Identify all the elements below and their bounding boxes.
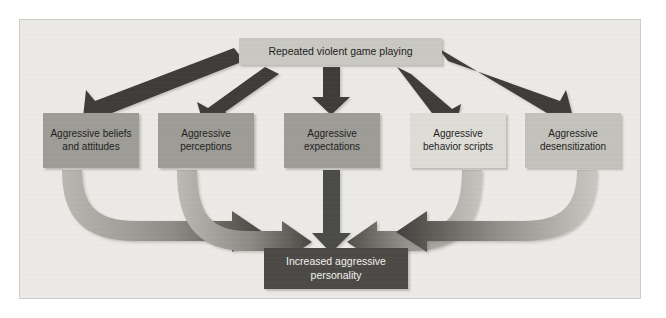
node-aggressive-expectations[interactable]: Aggressive expectations — [284, 113, 380, 168]
node-aggressive-perceptions[interactable]: Aggressive perceptions — [158, 113, 254, 168]
node-desensitization-label: Aggressive desensitization — [540, 128, 606, 153]
arrow-expectations-to-outcome — [312, 170, 351, 253]
node-aggressive-desensitization[interactable]: Aggressive desensitization — [525, 113, 621, 168]
diagram-frame: Repeated violent game playing Aggressive… — [19, 19, 641, 299]
arrow-desensitization-to-outcome — [396, 170, 597, 252]
node-outcome-label: Increased aggressive personality — [286, 255, 386, 281]
node-aggressive-beliefs-and-attitudes[interactable]: Aggressive beliefs and attitudes — [43, 113, 139, 168]
node-repeated-violent-game-playing[interactable]: Repeated violent game playing — [239, 38, 442, 65]
arrow-source-to-expectations — [312, 67, 350, 115]
node-beliefs-label: Aggressive beliefs and attitudes — [50, 128, 131, 153]
node-perceptions-label: Aggressive perceptions — [180, 128, 232, 153]
node-aggressive-behavior-scripts[interactable]: Aggressive behavior scripts — [410, 113, 506, 168]
node-expectations-label: Aggressive expectations — [304, 128, 360, 153]
figure-root: Repeated violent game playing Aggressive… — [0, 0, 666, 318]
node-increased-aggressive-personality[interactable]: Increased aggressive personality — [264, 248, 408, 289]
node-scripts-label: Aggressive behavior scripts — [423, 128, 493, 153]
node-source-label: Repeated violent game playing — [268, 45, 412, 58]
